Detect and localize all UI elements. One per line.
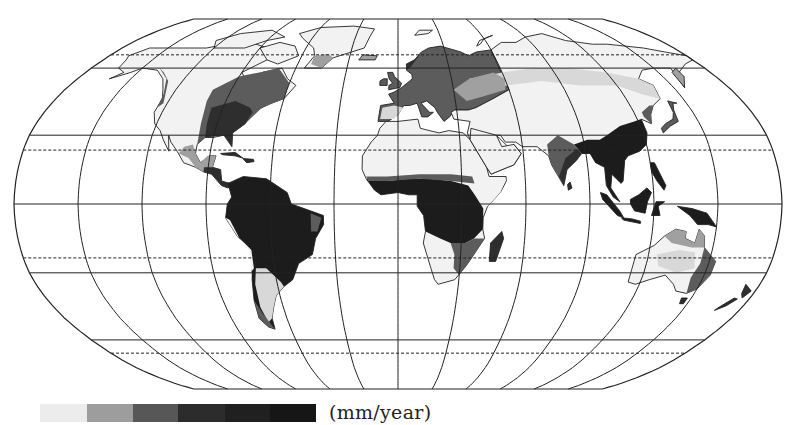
legend-swatch-6	[270, 404, 316, 422]
legend-color-bar	[40, 404, 316, 422]
legend-swatch-2	[87, 404, 133, 422]
land-masses	[109, 26, 751, 329]
cuba	[221, 152, 243, 158]
java	[622, 218, 641, 224]
world-precipitation-map	[0, 0, 788, 400]
tasmania	[680, 298, 688, 304]
hispaniola	[243, 159, 254, 163]
graticule	[14, 19, 782, 389]
borneo	[630, 188, 651, 213]
legend-swatch-5	[225, 404, 270, 422]
madagascar	[489, 232, 503, 262]
south-america	[226, 177, 324, 330]
legend-swatch-1	[40, 404, 87, 422]
iberia-dry	[380, 106, 404, 120]
ireland	[380, 79, 388, 86]
iceland	[359, 55, 378, 60]
japan	[661, 101, 678, 133]
british-isles	[388, 72, 402, 89]
new-guinea	[677, 206, 716, 227]
sri-lanka	[568, 182, 572, 190]
legend-unit-label: (mm/year)	[329, 401, 431, 423]
legend-swatch-3	[133, 404, 178, 422]
svalbard	[415, 30, 433, 35]
new-zealand-south	[714, 298, 737, 310]
sumatra	[600, 193, 623, 218]
novaya-zemlya	[477, 35, 493, 46]
legend-swatch-4	[178, 404, 225, 422]
new-zealand-north	[742, 284, 752, 298]
se-africa	[451, 238, 485, 275]
kamchatka	[672, 68, 685, 87]
greenland	[299, 26, 374, 68]
legend: (mm/year)	[40, 404, 316, 422]
